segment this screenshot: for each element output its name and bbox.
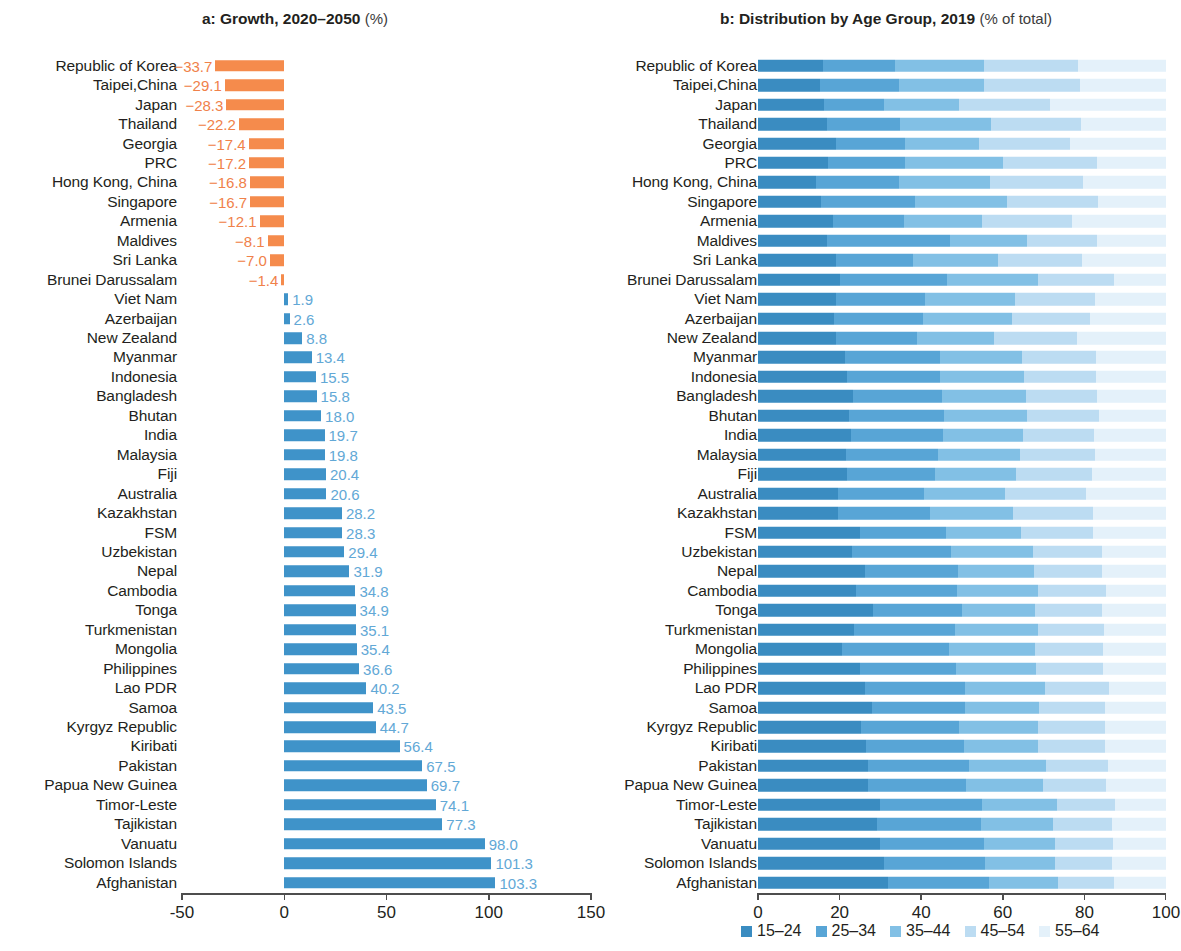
age-distribution-plot-area <box>758 328 1166 347</box>
age-segment-35-44 <box>957 585 1038 598</box>
age-distribution-row: Viet Nam <box>591 289 1181 308</box>
age-distribution-row: Bhutan <box>591 406 1181 425</box>
growth-category-label-wrap: Sri Lanka <box>0 251 177 270</box>
age-segment-35-44 <box>969 760 1046 773</box>
age-segment-25-34 <box>834 312 923 325</box>
growth-bar <box>284 605 355 617</box>
growth-value-label: 101.3 <box>495 856 533 871</box>
age-distribution-plot-area <box>758 348 1166 367</box>
age-distribution-stacked-bar <box>758 779 1166 792</box>
growth-row: Timor-Leste74.1 <box>0 795 591 814</box>
growth-category-label-wrap: FSM <box>0 523 177 542</box>
age-distribution-plot-area <box>758 56 1166 75</box>
growth-plot-area: 15.8 <box>182 387 591 406</box>
age-segment-25-34 <box>847 371 940 384</box>
age-segment-45-54 <box>1013 507 1093 520</box>
age-distribution-stacked-bar <box>758 254 1166 267</box>
age-distribution-plot-area <box>758 737 1166 756</box>
age-category-label: Afghanistan <box>676 875 757 891</box>
growth-row: Turkmenistan35.1 <box>0 620 591 639</box>
age-segment-15-24 <box>758 760 868 773</box>
age-segment-45-54 <box>1003 157 1097 170</box>
age-segment-35-44 <box>964 740 1039 753</box>
age-segment-55-64 <box>1090 312 1165 325</box>
age-distribution-stacked-bar <box>758 215 1166 228</box>
age-category-label: Malaysia <box>697 447 757 463</box>
growth-category-label: Myanmar <box>113 350 177 366</box>
age-segment-35-44 <box>935 468 1016 481</box>
age-segment-35-44 <box>942 390 1026 403</box>
age-distribution-row: Maldives <box>591 231 1181 250</box>
growth-plot-area: −17.2 <box>182 153 591 172</box>
growth-row: Uzbekistan29.4 <box>0 542 591 561</box>
growth-value-label: 31.9 <box>353 564 382 579</box>
age-segment-15-24 <box>758 818 877 831</box>
age-segment-55-64 <box>1070 137 1166 150</box>
growth-category-label-wrap: Taipei,China <box>0 75 177 94</box>
growth-bar <box>284 721 375 733</box>
growth-row: Lao PDR40.2 <box>0 678 591 697</box>
age-segment-45-54 <box>1039 701 1106 714</box>
age-distribution-plot-area <box>758 542 1166 561</box>
growth-axis-tick-label: 100 <box>475 903 503 923</box>
growth-bar <box>284 838 484 850</box>
age-category-label-wrap: Afghanistan <box>591 873 757 892</box>
age-segment-15-24 <box>758 215 833 228</box>
age-category-label-wrap: Brunei Darussalam <box>591 270 757 289</box>
growth-row: Armenia−12.1 <box>0 212 591 231</box>
legend-item: 35–44 <box>890 922 951 940</box>
growth-row: Maldives−8.1 <box>0 231 591 250</box>
age-distribution-row: Indonesia <box>591 367 1181 386</box>
age-category-label: Singapore <box>687 194 757 210</box>
age-distribution-plot-area <box>758 270 1166 289</box>
age-distribution-plot-area <box>758 640 1166 659</box>
age-segment-55-64 <box>1096 371 1166 384</box>
growth-row: Republic of Korea−33.7 <box>0 56 591 75</box>
age-segment-15-24 <box>758 176 816 189</box>
age-axis-line <box>758 893 1166 895</box>
age-distribution-plot-area <box>758 717 1166 736</box>
age-category-label: Cambodia <box>687 583 757 599</box>
growth-bar <box>284 546 344 558</box>
growth-chart-panel: Republic of Korea−33.7Taipei,China−29.1J… <box>0 0 591 951</box>
age-distribution-plot-area <box>758 289 1166 308</box>
growth-category-label: Republic of Korea <box>55 58 177 74</box>
age-segment-35-44 <box>895 59 984 72</box>
age-segment-45-54 <box>1038 624 1104 637</box>
legend-item: 15–24 <box>741 922 802 940</box>
age-segment-55-64 <box>1050 98 1166 111</box>
age-segment-55-64 <box>1083 176 1166 189</box>
age-distribution-row: Timor-Leste <box>591 795 1181 814</box>
age-category-label: Mongolia <box>695 641 757 657</box>
growth-axis-tick-label: -50 <box>170 903 195 923</box>
age-category-label-wrap: Georgia <box>591 134 757 153</box>
age-segment-15-24 <box>758 351 845 364</box>
age-segment-25-34 <box>865 682 965 695</box>
age-axis-tick <box>1165 893 1167 900</box>
age-segment-25-34 <box>856 585 957 598</box>
age-segment-35-44 <box>984 837 1055 850</box>
age-segment-55-64 <box>1097 390 1166 403</box>
age-category-label: Maldives <box>697 233 757 249</box>
age-segment-35-44 <box>924 487 1005 500</box>
age-segment-45-54 <box>1038 721 1105 734</box>
age-segment-55-64 <box>1098 196 1166 209</box>
age-category-label: Viet Nam <box>694 291 757 307</box>
growth-bar <box>284 430 324 442</box>
growth-bar <box>281 274 284 286</box>
age-distribution-row: Thailand <box>591 114 1181 133</box>
growth-category-label: FSM <box>145 525 177 541</box>
age-segment-35-44 <box>930 507 1013 520</box>
age-category-label: Georgia <box>703 136 757 152</box>
age-segment-25-34 <box>845 351 940 364</box>
age-segment-35-44 <box>905 157 1003 170</box>
growth-category-label: Georgia <box>123 136 177 152</box>
growth-bar <box>249 157 284 169</box>
age-segment-45-54 <box>1023 429 1094 442</box>
growth-category-label: Viet Nam <box>114 291 177 307</box>
age-distribution-stacked-bar <box>758 740 1166 753</box>
age-category-label-wrap: Turkmenistan <box>591 620 757 639</box>
growth-bar <box>239 118 284 130</box>
growth-category-label-wrap: India <box>0 426 177 445</box>
growth-row: India19.7 <box>0 426 591 445</box>
